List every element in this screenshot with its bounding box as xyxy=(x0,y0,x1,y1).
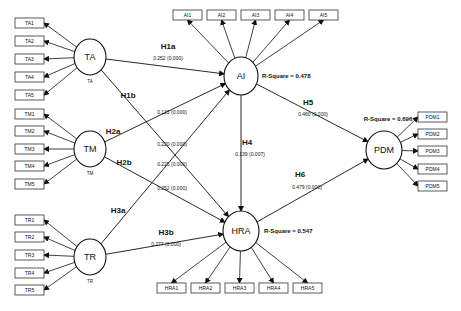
loading-arrow-pdm4 xyxy=(400,159,418,169)
indicator-label: TR1 xyxy=(25,217,35,223)
indicator-ai4[interactable]: AI4 xyxy=(275,10,304,20)
construct-label: TR xyxy=(84,252,96,262)
construct-ta[interactable]: TATA xyxy=(74,39,106,84)
path-coefficient-h2a: 0.133 (0.000) xyxy=(157,109,187,115)
path-coefficient-h6: 0.479 (0.000) xyxy=(292,184,322,190)
path-coefficient-h3a: 0.225 (0.000) xyxy=(157,161,187,167)
indicator-ta2[interactable]: TA2 xyxy=(15,36,44,46)
loading-arrow-ai5 xyxy=(256,20,324,66)
indicator-tr5[interactable]: TR5 xyxy=(15,285,44,295)
sem-path-diagram: TA1TA2TA3TA4TA5TM1TM2TM3TM4TM5TR1TR2TR3T… xyxy=(0,0,461,311)
loading-arrow-tm5 xyxy=(44,159,77,184)
loading-arrow-hra2 xyxy=(206,247,231,283)
indicator-ai2[interactable]: AI2 xyxy=(207,10,236,20)
indicator-label: HRA5 xyxy=(301,285,315,291)
loading-arrow-hra5 xyxy=(256,243,308,283)
loading-arrow-tr1 xyxy=(44,220,77,247)
indicator-label: TM5 xyxy=(25,181,35,187)
indicator-label: TA4 xyxy=(25,74,34,80)
loading-arrow-pdm2 xyxy=(400,134,418,142)
indicator-tm1[interactable]: TM1 xyxy=(15,109,44,119)
construct-label: HRA xyxy=(231,226,250,236)
indicator-tm4[interactable]: TM4 xyxy=(15,161,44,171)
hypothesis-label-h6: H6 xyxy=(295,170,306,179)
indicator-pdm3[interactable]: PDM3 xyxy=(418,146,447,156)
indicator-label: TM4 xyxy=(25,163,35,169)
indicator-hra3[interactable]: HRA3 xyxy=(225,283,254,293)
indicator-ta3[interactable]: TA3 xyxy=(15,54,44,64)
loading-arrow-tm1 xyxy=(44,114,77,139)
indicator-tm2[interactable]: TM2 xyxy=(15,126,44,136)
loading-arrow-tr3 xyxy=(44,255,74,256)
indicator-ta4[interactable]: TA4 xyxy=(15,72,44,82)
hypothesis-label-h3a: H3a xyxy=(111,206,126,215)
construct-tr[interactable]: TRTR xyxy=(74,239,106,284)
indicator-pdm2[interactable]: PDM2 xyxy=(418,129,447,139)
hypothesis-label-h2b: H2b xyxy=(116,158,131,167)
indicator-label: TR3 xyxy=(25,252,35,258)
indicator-ai1[interactable]: AI1 xyxy=(173,10,202,20)
indicator-label: AI4 xyxy=(286,12,294,18)
path-coefficient-h4: 0.139 (0.007) xyxy=(235,151,265,157)
indicator-label: TR2 xyxy=(25,234,35,240)
indicator-tm5[interactable]: TM5 xyxy=(15,179,44,189)
construct-sublabel: TR xyxy=(87,279,94,284)
indicator-tm3[interactable]: TM3 xyxy=(15,144,44,154)
indicator-label: PDM1 xyxy=(426,114,440,120)
indicator-label: TM3 xyxy=(25,146,35,152)
hypothesis-label-h2a: H2a xyxy=(106,127,121,136)
path-h6 xyxy=(257,159,368,222)
hypothesis-label-h5: H5 xyxy=(303,98,314,107)
indicator-label: PDM2 xyxy=(426,131,440,137)
loading-arrow-ta3 xyxy=(44,58,74,59)
loading-arrow-ta5 xyxy=(44,68,77,95)
indicator-label: TA3 xyxy=(25,56,34,62)
indicator-hra5[interactable]: HRA5 xyxy=(293,283,322,293)
path-coefficient-h3b: 0.277 (0.000) xyxy=(151,241,181,247)
construct-hra[interactable]: HRA xyxy=(223,211,259,251)
indicator-label: HRA2 xyxy=(199,285,213,291)
indicator-label: HRA4 xyxy=(267,285,281,291)
indicator-tr3[interactable]: TR3 xyxy=(15,250,44,260)
construct-tm[interactable]: TMTM xyxy=(74,131,106,176)
loading-arrow-hra1 xyxy=(172,242,227,283)
loading-arrow-tm2 xyxy=(44,131,75,143)
indicator-ta1[interactable]: TA1 xyxy=(15,18,44,28)
indicator-tr1[interactable]: TR1 xyxy=(15,215,44,225)
loading-arrow-ai2 xyxy=(222,20,235,58)
indicator-label: TR4 xyxy=(25,270,35,276)
path-coefficient-h5: 0.460 (0.000) xyxy=(298,111,328,117)
indicator-label: PDM3 xyxy=(426,148,440,154)
indicator-pdm5[interactable]: PDM5 xyxy=(418,181,447,191)
indicator-ai5[interactable]: AI5 xyxy=(309,10,338,20)
hypothesis-label-h1a: H1a xyxy=(161,42,176,51)
indicator-pdm1[interactable]: PDM1 xyxy=(418,112,447,122)
construct-ai[interactable]: AI xyxy=(224,57,258,95)
construct-pdm[interactable]: PDM xyxy=(366,131,402,169)
loading-arrow-ta1 xyxy=(44,23,77,47)
loading-arrow-ai1 xyxy=(188,20,229,63)
indicator-label: AI2 xyxy=(218,12,226,18)
hypothesis-label-h4: H4 xyxy=(242,138,253,147)
indicator-label: PDM4 xyxy=(426,166,440,172)
path-coefficient-h1a: 0.252 (0.000) xyxy=(153,55,183,61)
indicator-label: TM1 xyxy=(25,111,35,117)
indicator-label: TM2 xyxy=(25,128,35,134)
indicator-hra1[interactable]: HRA1 xyxy=(157,283,186,293)
loading-arrow-hra4 xyxy=(251,247,273,283)
indicator-pdm4[interactable]: PDM4 xyxy=(418,164,447,174)
indicator-tr4[interactable]: TR4 xyxy=(15,268,44,278)
indicator-ai3[interactable]: AI3 xyxy=(241,10,270,20)
indicator-hra4[interactable]: HRA4 xyxy=(259,283,288,293)
indicator-label: TR5 xyxy=(25,287,35,293)
indicator-label: TA1 xyxy=(25,20,34,26)
indicator-label: AI5 xyxy=(320,12,328,18)
indicator-ta5[interactable]: TA5 xyxy=(15,90,44,100)
indicator-label: AI3 xyxy=(252,12,260,18)
construct-label: AI xyxy=(237,71,246,81)
indicator-label: TA2 xyxy=(25,38,34,44)
indicator-hra2[interactable]: HRA2 xyxy=(191,283,220,293)
construct-label: TM xyxy=(84,144,97,154)
indicator-label: PDM5 xyxy=(426,183,440,189)
indicator-tr2[interactable]: TR2 xyxy=(15,232,44,242)
